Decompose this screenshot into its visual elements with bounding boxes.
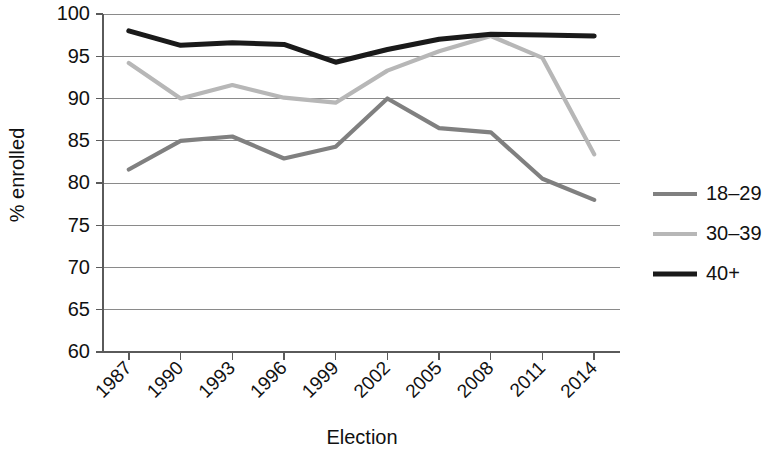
legend-label: 40+ [706,262,740,284]
y-axis-tick-label: 80 [68,171,90,193]
x-axis-tick-label: 2002 [349,357,394,402]
x-axis-tick-label: 1996 [246,357,291,402]
chart-canvas: 6065707580859095100 19871990199319961999… [0,0,766,455]
y-axis-tick-label: 75 [68,214,90,236]
x-axis-tick-label: 2011 [506,357,550,401]
line-chart: 6065707580859095100 19871990199319961999… [0,0,766,455]
x-axis-title: Election [326,426,397,448]
y-axis-tick-label: 70 [68,256,90,278]
y-axis-tick-label: 100 [57,2,90,24]
x-axis-tick-label: 1993 [194,357,239,402]
y-axis-tick-label: 60 [68,340,90,362]
x-axis-tick-label: 2005 [401,357,446,402]
x-axis-tick-label: 2008 [453,357,498,402]
legend: 18–2930–3940+ [653,182,762,284]
y-axis-tick-marks [96,14,103,352]
legend-label: 18–29 [706,182,762,204]
x-axis-tick-label: 2014 [556,357,601,402]
y-axis-tick-label: 95 [68,45,90,67]
series-line-40- [129,31,594,62]
y-axis-tick-labels: 6065707580859095100 [57,2,90,362]
legend-label: 30–39 [706,222,762,244]
y-axis-tick-label: 85 [68,129,90,151]
series-line-18-29 [129,99,594,200]
x-axis-tick-marks [129,352,594,360]
x-axis-tick-labels: 1987199019931996199920022005200820112014 [91,357,601,402]
y-axis-tick-label: 90 [68,87,90,109]
x-axis-tick-label: 1990 [143,357,188,402]
y-axis-title: % enrolled [6,128,28,223]
x-axis-tick-label: 1987 [91,357,136,402]
y-axis-tick-label: 65 [68,298,90,320]
x-axis-tick-label: 1999 [298,357,343,402]
